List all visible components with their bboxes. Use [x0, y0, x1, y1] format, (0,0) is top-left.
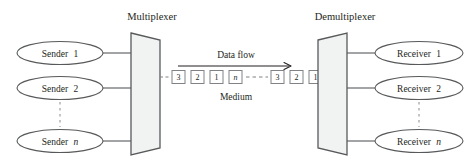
receiver-1-prefix: Receiver: [397, 49, 432, 59]
medium-label: Medium: [220, 92, 253, 102]
demultiplexer-title: Demultiplexer: [315, 11, 376, 22]
receiver-n-prefix: Receiver: [397, 137, 432, 147]
data-flow-label: Data flow: [217, 50, 255, 60]
multiplexer-shape: [131, 33, 160, 155]
receiver-n-suffix: n: [436, 137, 441, 147]
medium-cell-right-2-label: 2: [295, 73, 299, 82]
sender-n-suffix: n: [74, 137, 79, 147]
medium-cell-left-3-label: 1: [215, 73, 219, 82]
sender-n-prefix: Sender: [42, 137, 69, 147]
receiver-2-suffix: 2: [436, 84, 441, 94]
medium-cell-left-2-label: 2: [196, 73, 200, 82]
sender-2-prefix: Sender: [42, 84, 69, 94]
sender-n-label: Sender n: [42, 137, 79, 147]
receiver-1-suffix: 1: [436, 49, 441, 59]
diagram-canvas: Sender 1 Sender 2 Sender n Multiplexer D…: [0, 0, 476, 165]
sender-2-suffix: 2: [74, 84, 79, 94]
demultiplexer-shape: [318, 33, 347, 155]
medium-cell-left-4-label: n: [234, 73, 238, 82]
medium-cell-left-1-label: 3: [177, 73, 181, 82]
medium-cell-right-3-label: 1: [314, 73, 318, 82]
sender-1-suffix: 1: [74, 49, 79, 59]
sender-1-prefix: Sender: [42, 49, 69, 59]
multiplexer-title: Multiplexer: [127, 11, 177, 22]
sender-2-label: Sender 2: [42, 84, 79, 94]
medium-cell-right-1-label: 3: [276, 73, 280, 82]
receiver-2-prefix: Receiver: [397, 84, 432, 94]
multiplexing-diagram: Sender 1 Sender 2 Sender n Multiplexer D…: [0, 0, 476, 165]
sender-1-label: Sender 1: [42, 49, 79, 59]
